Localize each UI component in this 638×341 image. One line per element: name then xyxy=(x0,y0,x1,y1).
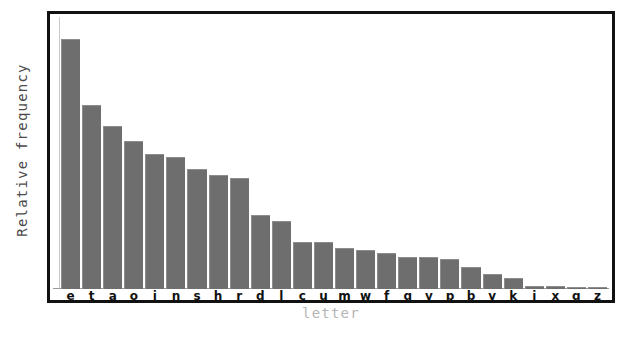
tick-label-r: r xyxy=(230,289,249,303)
bar-s xyxy=(187,169,206,289)
tick-label-b: b xyxy=(461,289,480,303)
tick-label-l: l xyxy=(272,289,291,303)
bar-v xyxy=(483,274,502,289)
tick-label-h: h xyxy=(209,289,228,303)
bar-d xyxy=(251,215,270,289)
bar-h xyxy=(209,175,228,289)
bar-n xyxy=(166,157,185,289)
tick-label-e: e xyxy=(61,289,80,303)
plot-frame: etaoinshrdlcumwfgypbvkjxqz xyxy=(47,11,615,303)
y-axis-title: Relative frequency xyxy=(0,0,44,300)
x-axis-tick-labels: etaoinshrdlcumwfgypbvkjxqz xyxy=(61,289,607,303)
tick-label-z: z xyxy=(588,289,607,303)
bar-b xyxy=(461,267,480,289)
bar-k xyxy=(504,278,523,289)
tick-label-i: i xyxy=(145,289,164,303)
tick-label-c: c xyxy=(293,289,312,303)
bar-f xyxy=(377,253,396,289)
y-axis-spine xyxy=(59,17,60,289)
y-axis-title-text: Relative frequency xyxy=(14,63,30,236)
bar-series xyxy=(61,17,607,289)
plot-area: etaoinshrdlcumwfgypbvkjxqz xyxy=(53,17,609,297)
tick-label-x: x xyxy=(546,289,565,303)
tick-label-f: f xyxy=(377,289,396,303)
tick-label-g: g xyxy=(398,289,417,303)
tick-label-j: j xyxy=(525,289,544,303)
bar-i xyxy=(145,154,164,289)
bar-e xyxy=(61,39,80,289)
bar-a xyxy=(103,126,122,289)
bar-g xyxy=(398,257,417,289)
tick-label-w: w xyxy=(356,289,375,303)
tick-label-d: d xyxy=(251,289,270,303)
bar-p xyxy=(440,259,459,289)
tick-label-v: v xyxy=(483,289,502,303)
letter-frequency-chart: Relative frequency etaoinshrdlcumwfgypbv… xyxy=(0,0,638,341)
tick-label-m: m xyxy=(335,289,354,303)
tick-label-a: a xyxy=(103,289,122,303)
bar-y xyxy=(419,257,438,289)
bar-c xyxy=(293,242,312,289)
bar-u xyxy=(314,242,333,289)
tick-label-k: k xyxy=(504,289,523,303)
bar-o xyxy=(124,141,143,289)
tick-label-p: p xyxy=(440,289,459,303)
tick-label-o: o xyxy=(124,289,143,303)
tick-label-n: n xyxy=(166,289,185,303)
bar-l xyxy=(272,221,291,289)
bar-w xyxy=(356,250,375,289)
bar-m xyxy=(335,248,354,289)
tick-label-q: q xyxy=(567,289,586,303)
x-axis-title: letter xyxy=(47,305,615,321)
tick-label-y: y xyxy=(419,289,438,303)
tick-label-u: u xyxy=(314,289,333,303)
tick-label-t: t xyxy=(82,289,101,303)
bar-t xyxy=(82,105,101,289)
tick-label-s: s xyxy=(187,289,206,303)
bar-r xyxy=(230,178,249,289)
